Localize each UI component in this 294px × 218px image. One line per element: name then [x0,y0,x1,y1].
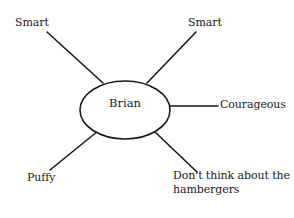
branch-label-bottom-right-line1: Don't think about the [173,169,290,183]
branch-label-bottom-right-line2: hambergers [173,183,239,197]
branch-label-bottom-left: Puffy [27,171,55,185]
edge-bottom-left [50,131,98,170]
center-node-ellipse [80,81,170,139]
branch-label-top-right: Smart [188,16,222,30]
branch-label-top-left: Smart [15,16,49,30]
edge-bottom-right [155,132,197,172]
edge-top-right [147,32,196,83]
branch-label-right: Courageous [220,98,286,112]
center-node-label: Brian [80,96,170,110]
edge-top-left [47,32,103,83]
